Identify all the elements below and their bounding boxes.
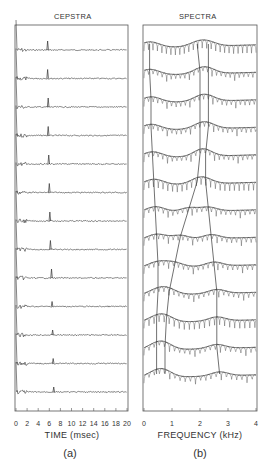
spectra-x-tick-label: 4 [254,420,258,427]
figure-canvas [0,0,272,462]
spectra-x-tick-label: 0 [142,420,146,427]
spectra-x-axis-label: FREQUENCY (kHz) [158,430,243,440]
spectra-x-tick-label: 1 [170,420,174,427]
axis-ticks [16,408,256,411]
formant-track-f1 [150,44,158,374]
cepstra-frame [15,25,128,411]
cepstra-x-axis-label: TIME (msec) [45,430,100,440]
spectra-x-tick-label: 2 [198,420,202,427]
spectra-x-tick-labels: 01234 [0,420,272,430]
subfigure-label-a: (a) [63,447,76,459]
cepstra-traces [16,20,127,394]
spectra-x-tick-label: 3 [226,420,230,427]
subfigure-label-b: (b) [193,447,206,459]
